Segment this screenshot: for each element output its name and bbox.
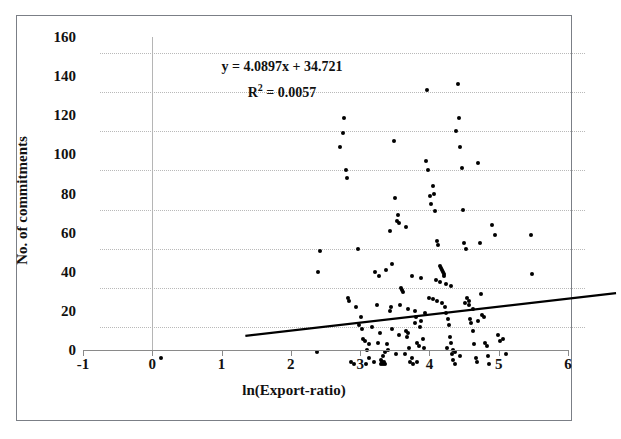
x-tick-label-0: 0 xyxy=(149,356,157,373)
y-tick-label-100: 100 xyxy=(54,146,77,163)
data-point xyxy=(432,192,436,196)
regression-equation-text: y = 4.0897x + 34.721 xyxy=(167,56,397,77)
data-point xyxy=(504,352,508,356)
data-point xyxy=(476,319,480,323)
data-point xyxy=(490,223,494,227)
data-point xyxy=(419,319,423,323)
gridline-y-40 xyxy=(100,288,585,289)
gridline-y-60 xyxy=(100,249,585,250)
y-tick-label-60: 60 xyxy=(61,224,76,241)
data-point xyxy=(354,305,358,309)
y-tick-label-40: 40 xyxy=(61,263,76,280)
data-point xyxy=(406,307,410,311)
data-point xyxy=(403,352,407,356)
gridline-y-20 xyxy=(100,327,585,328)
r-squared-text: R2 = 0.0057 xyxy=(167,77,397,103)
data-point xyxy=(159,356,163,360)
data-point xyxy=(438,280,442,284)
data-point xyxy=(401,290,405,294)
data-point xyxy=(529,233,533,237)
data-point xyxy=(501,337,505,341)
data-point xyxy=(398,303,402,307)
data-point xyxy=(372,360,376,364)
data-point xyxy=(454,129,458,133)
data-point xyxy=(444,282,448,286)
data-point xyxy=(375,303,379,307)
data-point xyxy=(378,331,382,335)
y-tick-label-120: 120 xyxy=(54,107,77,124)
x-axis-title: ln(Export-ratio) xyxy=(0,382,588,399)
data-point xyxy=(389,305,393,309)
data-point xyxy=(418,325,422,329)
data-point xyxy=(384,268,388,272)
data-point xyxy=(475,360,479,364)
data-point xyxy=(410,274,414,278)
r-squared-value: = 0.0057 xyxy=(263,85,316,100)
data-point xyxy=(479,292,483,296)
data-point xyxy=(436,243,440,247)
data-point xyxy=(338,145,342,149)
data-point xyxy=(443,305,447,309)
data-point xyxy=(471,329,475,333)
data-point xyxy=(457,116,461,120)
y-axis-title: No. of commitments xyxy=(14,91,31,311)
data-point xyxy=(385,342,389,346)
data-point xyxy=(390,327,394,331)
data-point xyxy=(472,342,476,346)
data-point xyxy=(377,274,381,278)
gridline-y-160 xyxy=(100,53,585,54)
data-point xyxy=(453,362,457,366)
x-tick-label-2: 2 xyxy=(287,356,295,373)
data-point xyxy=(405,335,409,339)
data-point xyxy=(485,344,489,348)
data-point xyxy=(359,315,363,319)
data-point xyxy=(364,362,368,366)
data-point xyxy=(370,325,374,329)
data-point xyxy=(469,321,473,325)
y-axis-tick-labels: 020406080100120140160 xyxy=(0,0,76,439)
data-point xyxy=(342,116,346,120)
y-tick-label-140: 140 xyxy=(54,68,77,85)
data-point xyxy=(394,352,398,356)
x-tick-label-6: 6 xyxy=(564,356,572,373)
x-tick-label--1: -1 xyxy=(77,356,90,373)
data-point xyxy=(442,274,446,278)
data-point xyxy=(344,168,348,172)
trendline xyxy=(183,90,621,403)
data-point xyxy=(429,202,433,206)
data-point xyxy=(423,311,427,315)
data-point xyxy=(458,145,462,149)
x-axis-line xyxy=(83,350,568,351)
gridline-y-100 xyxy=(100,170,585,171)
data-point xyxy=(363,339,367,343)
y-tick-label-80: 80 xyxy=(61,185,76,202)
gridline-y-80 xyxy=(100,210,585,211)
x-tick-label-1: 1 xyxy=(218,356,226,373)
x-tick-label-3: 3 xyxy=(356,356,364,373)
data-point xyxy=(352,362,356,366)
data-point xyxy=(367,356,371,360)
x-tick-label-5: 5 xyxy=(495,356,503,373)
data-point xyxy=(356,247,360,251)
r-symbol: R xyxy=(248,85,258,100)
data-point xyxy=(410,356,414,360)
data-point xyxy=(444,311,448,315)
data-point xyxy=(435,299,439,303)
data-point xyxy=(530,272,534,276)
y-tick-label-160: 160 xyxy=(54,29,77,46)
y-tick-label-0: 0 xyxy=(69,342,77,359)
data-point xyxy=(426,168,430,172)
data-point xyxy=(388,309,392,313)
data-point xyxy=(396,213,400,217)
data-point xyxy=(397,333,401,337)
data-point xyxy=(318,249,322,253)
data-point xyxy=(446,317,450,321)
data-point xyxy=(458,354,462,358)
data-point xyxy=(414,315,418,319)
data-point xyxy=(496,333,500,337)
data-point xyxy=(404,225,408,229)
data-point xyxy=(464,247,468,251)
data-point xyxy=(413,309,417,313)
data-point xyxy=(417,344,421,348)
